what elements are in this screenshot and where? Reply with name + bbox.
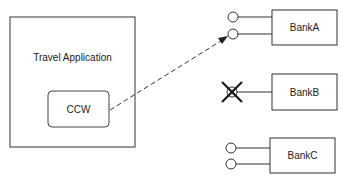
port-circle-icon — [228, 12, 238, 22]
travel-application-label: Travel Application — [10, 50, 135, 64]
bank-c-label: BankC — [270, 138, 335, 173]
port-circle-icon — [226, 143, 236, 153]
bank-b-label: BankB — [272, 74, 337, 110]
ccw-label: CCW — [48, 91, 109, 127]
arrowhead-icon — [218, 36, 228, 44]
port-circle-icon — [228, 29, 238, 39]
port-circle-icon — [226, 159, 236, 169]
bank-a-label: BankA — [272, 10, 337, 45]
